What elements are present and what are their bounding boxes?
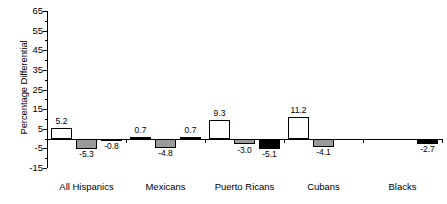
bar: [259, 139, 280, 149]
x-tick: [442, 139, 443, 143]
y-axis-label: Percentage Differential: [18, 13, 29, 163]
y-tick-minor: [45, 40, 48, 41]
bar-value-label: -4.1: [306, 148, 341, 157]
y-tick-minor: [45, 60, 48, 61]
bar: [209, 120, 230, 138]
bar-value-label: 0.7: [123, 126, 158, 135]
bar: [417, 139, 438, 144]
bar-value-label: 0.7: [173, 126, 208, 135]
bar: [130, 137, 151, 139]
bar-value-label: -5.3: [69, 150, 104, 159]
x-tick: [47, 139, 48, 143]
y-tick-label: -15: [29, 163, 43, 173]
category-label: Puerto Ricans: [215, 182, 275, 192]
x-tick: [205, 139, 206, 143]
bar-value-label: 5.2: [44, 117, 79, 126]
y-tick: [43, 50, 47, 51]
category-label: All Hispanics: [59, 182, 113, 192]
y-tick-label: 45: [32, 46, 43, 56]
y-tick: [43, 129, 47, 130]
bar-value-label: -5.1: [252, 150, 287, 159]
y-tick-label: -5: [35, 144, 43, 154]
bar: [288, 117, 309, 139]
category-label: Mexicans: [145, 182, 185, 192]
y-tick-label: 35: [32, 65, 43, 75]
y-tick: [43, 31, 47, 32]
y-tick: [43, 168, 47, 169]
y-tick: [43, 148, 47, 149]
y-tick-label: 5: [38, 124, 43, 134]
bar: [155, 139, 176, 148]
x-tick: [363, 139, 364, 143]
y-tick-label: 65: [32, 6, 43, 16]
bar: [180, 137, 201, 139]
category-label: Cubans: [307, 182, 340, 192]
y-tick: [43, 109, 47, 110]
y-axis-spine: [47, 11, 48, 168]
bar-value-label: 11.2: [281, 106, 316, 115]
y-tick: [43, 70, 47, 71]
bar-chart: Percentage Differential 6555453525155-5-…: [0, 0, 447, 204]
y-tick-label: 55: [32, 26, 43, 36]
y-tick-minor: [45, 80, 48, 81]
bar-value-label: -4.8: [148, 149, 183, 158]
bar-value-label: -0.8: [94, 142, 129, 151]
y-tick-label: 15: [32, 104, 43, 114]
bar-value-label: -2.7: [410, 145, 445, 154]
bar: [313, 139, 334, 147]
category-label: Blacks: [389, 182, 417, 192]
x-tick: [284, 139, 285, 143]
y-tick-label: 25: [32, 85, 43, 95]
bar: [234, 139, 255, 145]
y-tick: [43, 90, 47, 91]
y-tick-minor: [45, 21, 48, 22]
y-tick-minor: [45, 158, 48, 159]
y-tick-minor: [45, 99, 48, 100]
plot-area: 6555453525155-5-15 5.2-5.3-0.80.7-4.80.7…: [47, 11, 442, 168]
y-tick: [43, 11, 47, 12]
bar-value-label: 9.3: [202, 109, 237, 118]
bar: [51, 128, 72, 138]
